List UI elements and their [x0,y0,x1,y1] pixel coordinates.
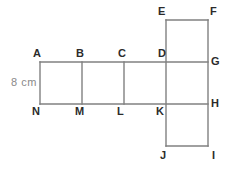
vertex-label-h: H [211,98,219,109]
vertex-label-f: F [210,6,217,17]
vertex-label-b: B [76,48,84,59]
vertex-label-e: E [158,6,165,17]
vertex-label-j: J [160,150,166,161]
dimension-label-8cm: 8 cm [11,77,37,88]
net-of-cuboid-diagram: 8 cm A B C D E F G H I J K L M N [0,0,236,171]
vertex-label-d: D [158,48,166,59]
vertex-label-n: N [32,106,40,117]
vertex-label-a: A [33,48,41,59]
vertex-label-l: L [117,106,124,117]
vertex-label-m: M [75,106,84,117]
vertex-label-i: I [212,150,215,161]
vertex-label-c: C [118,48,126,59]
vertex-label-k: K [156,106,164,117]
vertex-label-g: G [211,56,220,67]
